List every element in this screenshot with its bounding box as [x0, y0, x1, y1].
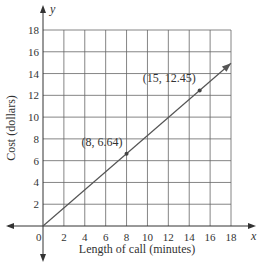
cost-vs-length-chart: 2468101214161824681012141618 (8, 6.64)(1… — [0, 0, 263, 268]
y-axis-up-arrow-icon — [40, 5, 46, 13]
data-point-label: (8, 6.64) — [82, 135, 123, 149]
x-tick-label: 2 — [61, 231, 67, 243]
y-tick-label: 4 — [34, 176, 40, 188]
y-axis-label: Cost (dollars) — [4, 95, 18, 161]
data-series — [43, 63, 231, 226]
y-tick-label: 6 — [34, 155, 40, 167]
y-tick-label: 18 — [28, 24, 40, 36]
data-points: (8, 6.64)(15, 12.45) — [82, 71, 202, 155]
y-tick-label: 16 — [28, 46, 40, 58]
y-axis-variable: y — [49, 2, 56, 16]
x-axis-label: Length of call (minutes) — [79, 242, 195, 256]
y-tick-label: 14 — [28, 68, 40, 80]
origin-label: 0 — [36, 231, 42, 243]
x-axis-variable: x — [250, 229, 257, 243]
y-tick-label: 2 — [34, 198, 40, 210]
x-tick-label: 18 — [226, 231, 238, 243]
axes — [6, 5, 256, 262]
y-tick-label: 8 — [34, 133, 40, 145]
data-point-marker — [198, 88, 202, 92]
y-axis-down-arrow-icon — [40, 254, 46, 262]
tick-labels: 2468101214161824681012141618 — [28, 24, 237, 243]
x-axis-left-arrow-icon — [6, 223, 14, 229]
x-tick-label: 16 — [205, 231, 217, 243]
grid-lines — [43, 30, 231, 226]
cost-line — [43, 63, 231, 226]
y-tick-label: 12 — [28, 89, 39, 101]
data-point-marker — [125, 152, 129, 156]
y-tick-label: 10 — [28, 111, 40, 123]
data-point-label: (15, 12.45) — [143, 71, 196, 85]
